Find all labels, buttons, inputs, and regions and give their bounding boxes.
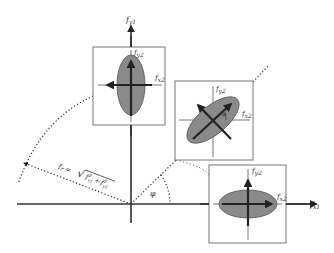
angle-arc xyxy=(161,175,170,204)
magnitude-radial-line xyxy=(24,163,131,204)
diagram-canvas: fx1 fy1 φ fr= √ f2x1+f2y1 xyxy=(0,0,334,253)
svg-text:fr=: fr= xyxy=(56,162,73,175)
rotation-direction-line-ext xyxy=(253,66,268,82)
panel-bottom-right: fy2 fx2 xyxy=(200,165,316,243)
y-axis-label: fy1 xyxy=(125,15,136,26)
angle-label: φ xyxy=(150,189,156,198)
panel-middle-x2-label: fx2 xyxy=(241,110,252,119)
panel-top-x2-label: fx2 xyxy=(154,74,165,83)
magnitude-formula: fr= √ f2x1+f2y1 xyxy=(56,159,116,192)
panel-middle: φ fy2 fx2 xyxy=(175,81,253,160)
arc-to-bottom-box xyxy=(176,160,209,176)
x-axis-label: fx1 xyxy=(309,200,320,210)
panel-bottom-x2-label: fx2 xyxy=(276,193,287,202)
panel-top: fy2 fx2 xyxy=(93,36,165,136)
